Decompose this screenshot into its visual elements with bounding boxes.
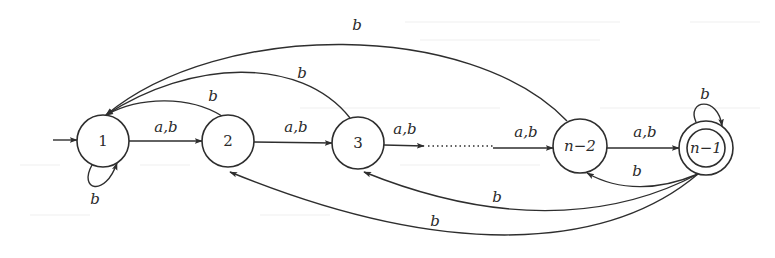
label-back-n2-1: b: [352, 16, 362, 34]
back-2-to-1: [106, 101, 222, 116]
bleed-through-text: [740, 14, 744, 34]
label-back-n1-3: b: [492, 188, 502, 206]
label-edge-n2-n1: a,b: [633, 123, 656, 141]
state-n-minus-1-accepting: n−1: [679, 121, 733, 175]
back-n1-to-2: [230, 172, 698, 235]
state-2: 2: [202, 115, 254, 167]
label-loop-1: b: [90, 190, 100, 208]
state-3: 3: [332, 117, 384, 169]
state-2-label: 2: [223, 132, 233, 150]
state-n-minus-2-label: n−2: [564, 137, 596, 155]
state-n-minus-2: n−2: [553, 119, 607, 173]
back-n1-to-3: [364, 172, 698, 211]
state-1-label: 1: [98, 132, 108, 150]
diagram-svg: 1 2 3 n−2 n−1 a,b a,b a,b a,b a,b b b b …: [0, 0, 775, 258]
label-edge-3-dots: a,b: [393, 120, 416, 138]
back-n1-to-n2: [587, 173, 698, 187]
state-n-minus-1-label: n−1: [690, 139, 722, 157]
label-back-n1-2: b: [430, 212, 440, 230]
state-3-label: 3: [353, 134, 363, 152]
edge-2-to-3: [254, 142, 332, 143]
edge-3-to-ellipsis: [384, 145, 424, 146]
label-loop-n1: b: [700, 85, 710, 103]
label-back-2-1: b: [208, 87, 218, 105]
label-edge-2-3: a,b: [284, 118, 307, 136]
back-3-to-1: [106, 72, 350, 118]
label-edge-dots-n2: a,b: [514, 123, 537, 141]
label-back-3-1: b: [297, 64, 307, 82]
label-edge-1-2: a,b: [154, 118, 177, 136]
state-1: 1: [77, 115, 129, 167]
automaton-diagram: 1 2 3 n−2 n−1 a,b a,b a,b a,b a,b b b b …: [0, 0, 775, 258]
label-back-n1-n2: b: [632, 162, 642, 180]
